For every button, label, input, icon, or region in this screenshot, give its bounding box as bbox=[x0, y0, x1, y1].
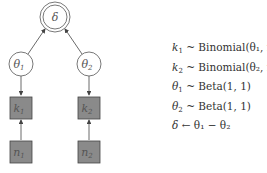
equation-theta1: θ1 ~ Beta(1, 1) bbox=[172, 79, 267, 99]
equation-k1: k1 ~ Binomial(θ₁, n₁) bbox=[172, 40, 267, 60]
node-delta: δ bbox=[40, 2, 70, 32]
edges bbox=[21, 29, 89, 140]
node-k1: k1 bbox=[10, 97, 32, 119]
node-n2: n2 bbox=[78, 141, 100, 163]
node-delta-label: δ bbox=[52, 11, 59, 24]
edge-theta2-delta bbox=[65, 29, 82, 54]
model-equations: k1 ~ Binomial(θ₁, n₁) k2 ~ Binomial(θ₂, … bbox=[172, 40, 267, 138]
equation-theta2: θ2 ~ Beta(1, 1) bbox=[172, 99, 267, 119]
graphical-model: δ θ1 θ2 k1 k2 n1 n2 bbox=[0, 0, 140, 173]
node-theta1: θ1 bbox=[9, 52, 33, 76]
node-k2: k2 bbox=[78, 97, 100, 119]
equation-delta: δ ← θ₁ − θ₂ bbox=[172, 118, 267, 138]
equation-k2: k2 ~ Binomial(θ₂, n₂) bbox=[172, 60, 267, 80]
node-theta2: θ2 bbox=[77, 52, 101, 76]
edge-theta1-delta bbox=[28, 29, 45, 54]
node-n1: n1 bbox=[10, 141, 32, 163]
